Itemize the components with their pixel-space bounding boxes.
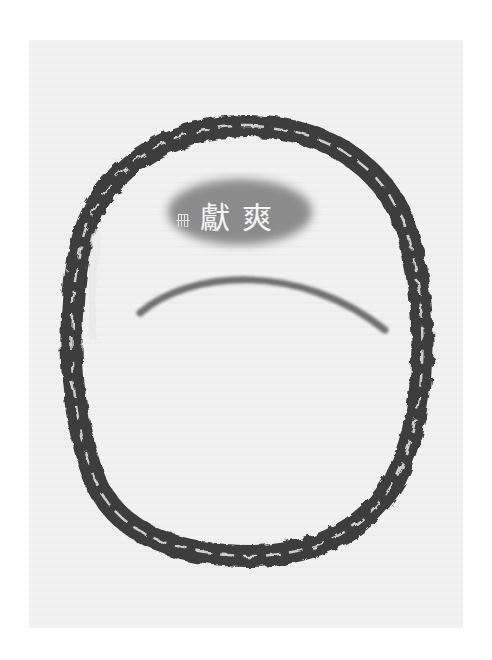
inner-arc: [140, 280, 385, 330]
inscription-glyph-1: 獻: [200, 193, 232, 237]
inscription-glyph-2: 爽: [242, 193, 274, 237]
inscription: 冊 獻 爽: [176, 190, 296, 240]
worn-edge: [90, 230, 100, 340]
rubbing-artwork: [0, 0, 492, 660]
inscription-glyph-small: 冊: [176, 209, 190, 229]
